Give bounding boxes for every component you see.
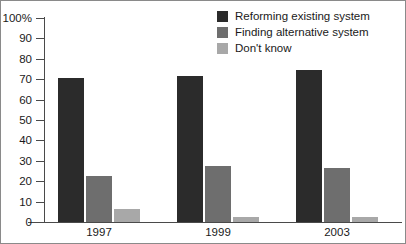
legend-item-label: Finding alternative system: [235, 26, 369, 39]
legend-swatch-icon: [217, 11, 228, 22]
bar: [204, 165, 232, 222]
y-axis-tick-mark: [36, 59, 45, 60]
bar: [113, 208, 141, 222]
legend-swatch-icon: [217, 43, 228, 54]
y-axis-tick-mark: [36, 38, 45, 39]
y-axis-tick-mark: [36, 120, 45, 121]
y-axis-tick-label: 80: [19, 51, 32, 67]
bar: [57, 77, 85, 222]
y-axis-tick-label: 60: [19, 92, 32, 108]
y-axis-tick-label: 40: [19, 132, 32, 148]
bar: [85, 175, 113, 222]
y-axis-tick-mark: [36, 222, 45, 223]
y-axis-tick-mark: [36, 202, 45, 203]
y-axis-tick-mark: [36, 161, 45, 162]
y-axis-tick-mark: [36, 79, 45, 80]
x-axis-group-label: 1997: [59, 226, 139, 238]
y-axis-tick-label: 50: [19, 112, 32, 128]
chart-legend: Reforming existing systemFinding alterna…: [217, 9, 370, 57]
legend-item-label: Don't know: [235, 42, 292, 55]
bar: [232, 216, 260, 222]
x-axis-group-label: 2003: [297, 226, 377, 238]
bar: [176, 75, 204, 222]
legend-item: Finding alternative system: [217, 25, 370, 40]
x-axis-line: [28, 222, 402, 223]
y-axis-tick-label: 90: [19, 30, 32, 46]
x-axis-group-label: 1999: [178, 226, 258, 238]
legend-swatch-icon: [217, 27, 228, 38]
y-axis-tick-label: 10: [19, 194, 32, 210]
bar: [351, 216, 379, 222]
y-axis-tick-mark: [36, 100, 45, 101]
y-axis-tick-mark: [36, 181, 45, 182]
y-axis-tick-label: 0: [26, 214, 32, 230]
y-axis-tick-label: 20: [19, 173, 32, 189]
legend-item: Reforming existing system: [217, 9, 370, 24]
y-axis-tick-label: 30: [19, 153, 32, 169]
bar-chart-figure: 100%9080706050403020100 Reforming existi…: [0, 0, 406, 244]
y-axis-tick-label: 100%: [3, 10, 32, 26]
legend-item: Don't know: [217, 41, 370, 56]
y-axis-tick-mark: [36, 18, 45, 19]
y-axis-tick-mark: [36, 140, 45, 141]
legend-item-label: Reforming existing system: [235, 10, 370, 23]
y-axis-tick-label: 70: [19, 71, 32, 87]
bar: [295, 69, 323, 222]
bar: [323, 167, 351, 222]
